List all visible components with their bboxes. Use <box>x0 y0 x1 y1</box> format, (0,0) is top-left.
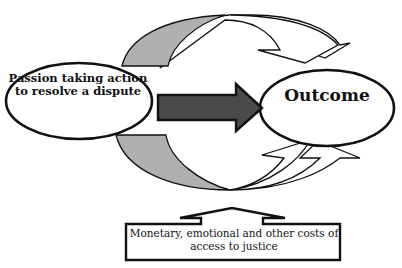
bottom-inner-curved-arrow <box>230 140 310 190</box>
right-node-label: Outcome <box>262 86 392 106</box>
right-node-ellipse <box>260 70 394 146</box>
top-cut-off-text <box>215 0 395 4</box>
center-right-arrow <box>158 84 262 131</box>
bottom-box-label: Monetary, emotional and other costs of a… <box>128 227 340 253</box>
left-node-label: Passion taking action to resolve a dispu… <box>8 72 148 98</box>
bottom-shaded-band <box>116 135 230 190</box>
